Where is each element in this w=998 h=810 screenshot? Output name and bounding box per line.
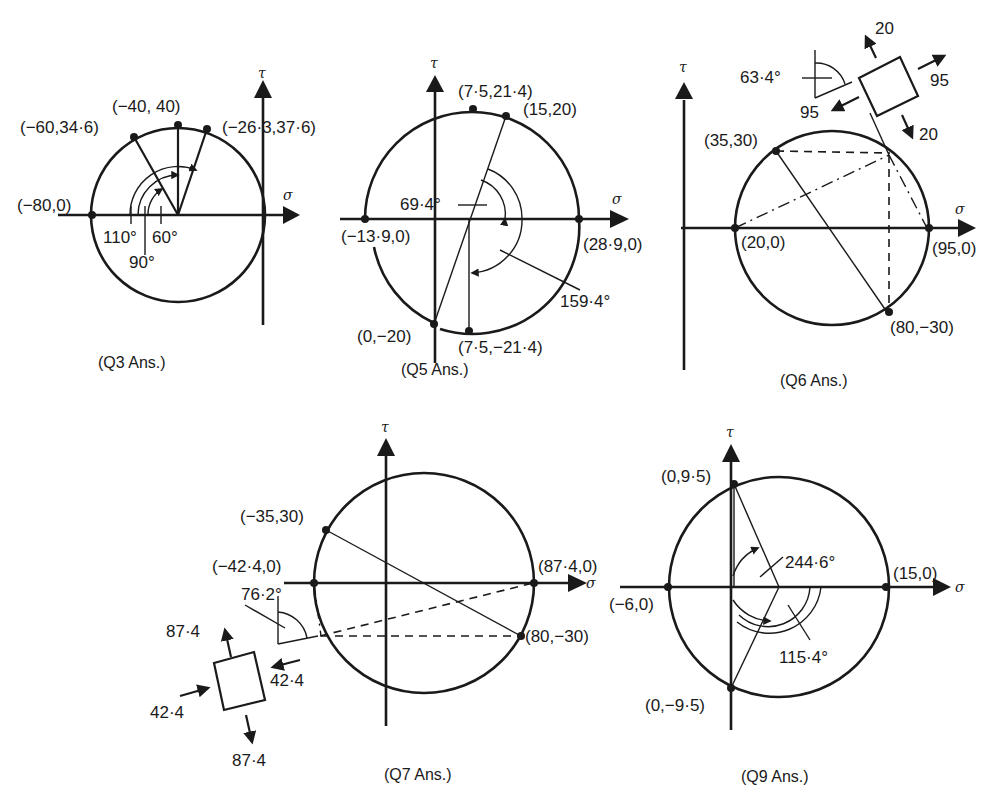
- mohr-circle: [365, 112, 579, 334]
- svg-text:τ: τ: [258, 65, 266, 81]
- point-label: (−80,0): [17, 196, 71, 215]
- angle-label: 110°: [103, 228, 137, 247]
- svg-text:σ: σ: [283, 187, 293, 203]
- caption: (Q9 Ans.): [741, 768, 809, 785]
- stress-label: 42·4: [150, 703, 184, 722]
- stress-element: 20 95 95 20: [800, 19, 949, 144]
- angle-label: 69·4°: [400, 195, 441, 214]
- panel-q6: σ τ 20 95 95 20 63·4°: [675, 19, 976, 389]
- sigma-axis: σ: [284, 574, 596, 592]
- svg-text:σ: σ: [955, 201, 965, 217]
- point-label: (−26·3,37·6): [222, 118, 316, 137]
- angle-label: 115·4°: [779, 648, 828, 667]
- panel-q3: σ τ (−80,0) (−60,34·6) (−40, 40) (−26·3,…: [17, 65, 316, 371]
- svg-text:σ: σ: [586, 575, 596, 591]
- tau-axis: τ: [675, 59, 693, 370]
- stress-label: 20: [919, 125, 938, 144]
- angle-label: 244·6°: [785, 553, 835, 572]
- point-label: (87·4,0): [538, 557, 598, 576]
- svg-text:τ: τ: [381, 419, 389, 435]
- point-label: (7·5,−21·4): [458, 338, 543, 357]
- point-label: (35,30): [704, 131, 758, 150]
- point-label: (0,−9·5): [645, 696, 705, 715]
- point-label: (−42·4,0): [212, 557, 281, 576]
- caption: (Q5 Ans.): [401, 361, 469, 378]
- svg-text:σ: σ: [612, 191, 622, 207]
- sigma-axis: σ: [681, 201, 976, 237]
- caption: (Q6 Ans.): [780, 372, 848, 389]
- stress-label: 87·4: [166, 622, 200, 641]
- caption: (Q3 Ans.): [98, 354, 166, 371]
- mohr-circle-answers-figure: σ τ (−80,0) (−60,34·6) (−40, 40) (−26·3,…: [0, 0, 998, 810]
- tau-axis: τ: [377, 419, 395, 726]
- angle-label: 90°: [129, 253, 155, 272]
- svg-text:τ: τ: [430, 55, 438, 71]
- point-label: (80,−30): [525, 627, 589, 646]
- angle-label: 159·4°: [560, 292, 610, 311]
- point-label: (−35,30): [240, 507, 304, 526]
- caption: (Q7 Ans.): [384, 766, 452, 783]
- point-label: (20,0): [741, 233, 785, 252]
- point-label: (−6,0): [609, 595, 654, 614]
- panel-q5: σ τ (7·5,21·4) (15,20) (−13·9,0) (28·9,0…: [340, 55, 643, 378]
- point-label: (95,0): [932, 239, 976, 258]
- stress-label: 20: [875, 19, 894, 38]
- svg-text:τ: τ: [726, 424, 734, 440]
- point-label: (15,20): [523, 100, 577, 119]
- stress-label: 95: [930, 71, 949, 90]
- point-label: (15,0): [893, 564, 937, 583]
- point-label: (28·9,0): [583, 235, 643, 254]
- point-label: (−13·9,0): [341, 227, 410, 246]
- stress-element: 87·4 42·4 42·4 87·4: [150, 622, 304, 770]
- point-label: (−60,34·6): [20, 118, 99, 137]
- point-label: (0,9·5): [661, 467, 711, 486]
- point-label: (0,−20): [357, 327, 411, 346]
- point-label: (80,−30): [890, 318, 954, 337]
- panel-q9: σ τ (0,9·5) (−6,0) (15,0) (0,−9·5) 244·6…: [609, 424, 965, 785]
- svg-text:σ: σ: [955, 579, 965, 595]
- svg-text:τ: τ: [679, 59, 687, 75]
- panel-q7: σ τ 76·2° 87·4 42·4 42·4 87·4: [150, 419, 598, 783]
- sigma-axis: σ: [340, 191, 629, 228]
- angle-label: 60°: [152, 228, 178, 247]
- angle-label: 63·4°: [740, 68, 781, 87]
- point-label: (7·5,21·4): [458, 82, 533, 101]
- stress-label: 87·4: [232, 751, 266, 770]
- stress-label: 95: [800, 103, 819, 122]
- point-label: (−40, 40): [112, 97, 181, 116]
- angle-label: 76·2°: [241, 585, 282, 604]
- stress-label: 42·4: [270, 671, 304, 690]
